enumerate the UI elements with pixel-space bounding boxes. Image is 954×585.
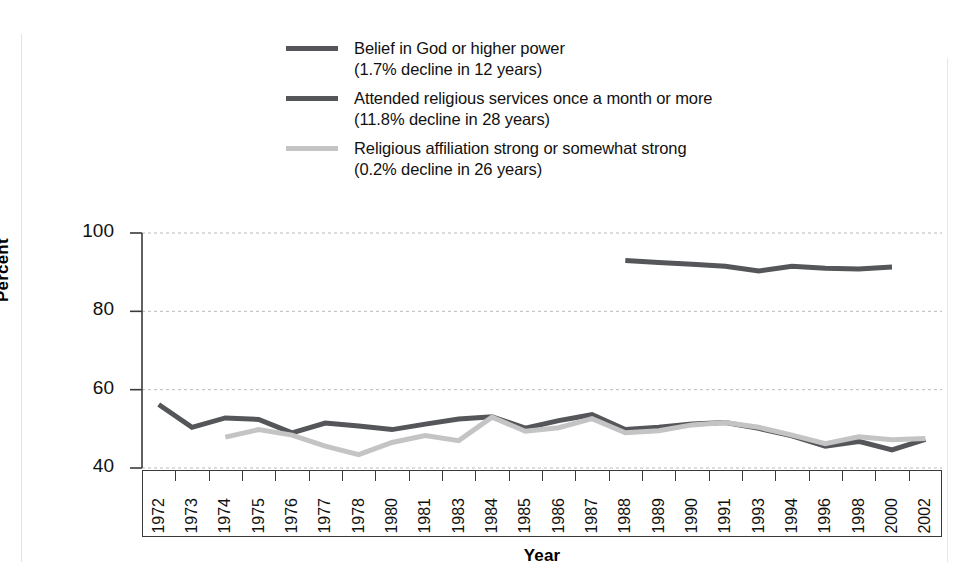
x-tick-label-1976: 1976 [283, 498, 301, 534]
x-tick-label-1977: 1977 [316, 498, 334, 534]
y-axis-title: Percent [0, 238, 13, 302]
x-tick-cell: 1989 [642, 470, 675, 536]
x-tick-label-2002: 2002 [916, 498, 934, 534]
chart-page: Belief in God or higher power (1.7% decl… [0, 0, 954, 585]
x-tick-label-2000: 2000 [883, 498, 901, 534]
x-tick-label-1984: 1984 [483, 498, 501, 534]
series-line-0 [625, 260, 892, 271]
x-axis-title: Year [142, 546, 942, 566]
x-tick-label-1988: 1988 [616, 498, 634, 534]
y-tick-label-60: 60 [64, 377, 114, 399]
x-tick-cell: 1983 [442, 470, 475, 536]
x-tick-label-1975: 1975 [250, 498, 268, 534]
x-tick-divider [175, 470, 176, 481]
x-tick-label-1998: 1998 [850, 498, 868, 534]
y-tick-label-80: 80 [64, 298, 114, 320]
x-tick-divider [775, 470, 776, 481]
y-tick-label-40: 40 [64, 455, 114, 477]
x-tick-divider [675, 470, 676, 481]
x-tick-divider [609, 470, 610, 481]
x-tick-divider [442, 470, 443, 481]
x-tick-divider [842, 470, 843, 481]
x-tick-cell: 1973 [175, 470, 208, 536]
x-tick-divider [242, 470, 243, 481]
x-tick-cell: 1996 [809, 470, 842, 536]
x-tick-divider [209, 470, 210, 481]
x-tick-cell: 1974 [209, 470, 242, 536]
x-tick-divider [375, 470, 376, 481]
x-tick-divider [542, 470, 543, 481]
x-tick-cell: 1985 [509, 470, 542, 536]
x-tick-divider [275, 470, 276, 481]
x-tick-label-1980: 1980 [383, 498, 401, 534]
x-tick-label-1973: 1973 [183, 498, 201, 534]
x-tick-divider [575, 470, 576, 481]
x-tick-cell: 1986 [542, 470, 575, 536]
x-tick-cell: 2000 [875, 470, 908, 536]
x-tick-cell: 1987 [575, 470, 608, 536]
x-tick-cell: 1977 [309, 470, 342, 536]
x-tick-divider [709, 470, 710, 481]
x-tick-cell: 1990 [675, 470, 708, 536]
x-axis-tick-band: 1972197319741975197619771978198019811983… [142, 470, 942, 536]
x-tick-label-1981: 1981 [416, 498, 434, 534]
x-tick-label-1985: 1985 [516, 498, 534, 534]
x-tick-divider [342, 470, 343, 481]
y-tick-label-100: 100 [64, 220, 114, 242]
line-chart: Percent Year 406080100 19721973197419751… [0, 0, 954, 585]
x-tick-cell: 1980 [375, 470, 408, 536]
x-tick-divider [909, 470, 910, 481]
x-tick-divider [642, 470, 643, 481]
x-tick-divider [509, 470, 510, 481]
x-tick-divider [742, 470, 743, 481]
x-tick-label-1990: 1990 [683, 498, 701, 534]
x-tick-label-1972: 1972 [150, 498, 168, 534]
x-tick-label-1994: 1994 [783, 498, 801, 534]
x-tick-label-1991: 1991 [716, 498, 734, 534]
x-tick-label-1989: 1989 [650, 498, 668, 534]
x-tick-cell: 1993 [742, 470, 775, 536]
x-tick-label-1986: 1986 [550, 498, 568, 534]
x-tick-label-1983: 1983 [450, 498, 468, 534]
x-tick-label-1987: 1987 [583, 498, 601, 534]
x-tick-divider [875, 470, 876, 481]
x-tick-divider [809, 470, 810, 481]
x-tick-label-1993: 1993 [750, 498, 768, 534]
x-tick-divider [475, 470, 476, 481]
x-tick-cell: 1998 [842, 470, 875, 536]
x-tick-label-1978: 1978 [350, 498, 368, 534]
x-tick-cell: 1972 [142, 470, 175, 536]
x-tick-cell: 2002 [909, 470, 942, 536]
x-tick-cell: 1994 [775, 470, 808, 536]
x-tick-cell: 1991 [709, 470, 742, 536]
x-tick-cell: 1981 [409, 470, 442, 536]
x-tick-cell: 1984 [475, 470, 508, 536]
x-tick-divider [309, 470, 310, 481]
x-band-bottom-rule [142, 536, 942, 537]
x-tick-cell: 1988 [609, 470, 642, 536]
x-tick-cell: 1975 [242, 470, 275, 536]
x-tick-divider [409, 470, 410, 481]
x-tick-label-1974: 1974 [216, 498, 234, 534]
x-tick-cell: 1976 [275, 470, 308, 536]
x-tick-label-1996: 1996 [816, 498, 834, 534]
x-tick-cell: 1978 [342, 470, 375, 536]
